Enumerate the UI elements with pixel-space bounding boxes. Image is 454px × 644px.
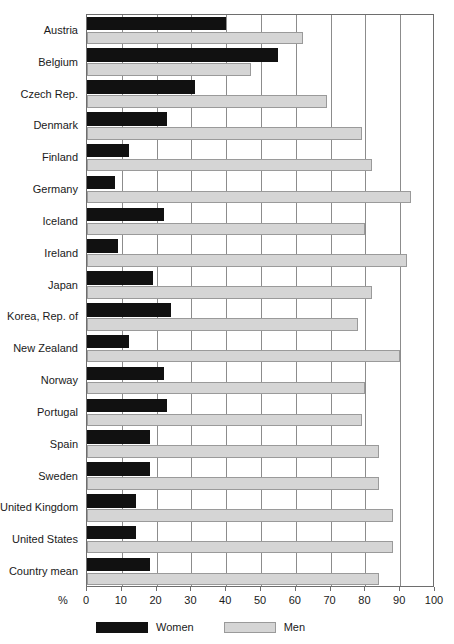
legend-item: Men [224,621,305,633]
category-label: United Kingdom [0,501,78,513]
category-label: Sweden [0,470,78,482]
category-label: Denmark [0,119,78,131]
x-tick-label: 0 [71,594,101,606]
x-tick-mark [434,587,435,591]
x-tick-label: 40 [210,594,240,606]
x-tick-label: 10 [106,594,136,606]
black-square-swatch [96,622,148,633]
percent-axis-symbol: % [58,594,68,606]
category-label: Belgium [0,56,78,68]
legend-label: Women [156,621,194,633]
x-tick-label: 50 [245,594,275,606]
category-label: Portugal [0,406,78,418]
category-label: Spain [0,438,78,450]
x-tick-mark [225,587,226,591]
category-label: Germany [0,183,78,195]
x-axis: 0102030405060708090100 [86,587,434,613]
bar-chart-figure: AustriaBelgiumCzech Rep.DenmarkFinlandGe… [0,0,454,644]
category-label: Norway [0,374,78,386]
x-tick-label: 80 [349,594,379,606]
x-tick-mark [86,587,87,591]
gray-square-swatch [224,622,276,633]
x-tick-mark [295,587,296,591]
x-tick-label: 20 [141,594,171,606]
x-tick-mark [190,587,191,591]
chart-legend: WomenMen [96,618,305,636]
category-label: Country mean [0,565,78,577]
x-tick-label: 70 [315,594,345,606]
category-label: Japan [0,279,78,291]
legend-label: Men [284,621,305,633]
category-label: Finland [0,151,78,163]
category-label: Czech Rep. [0,88,78,100]
category-label: Austria [0,24,78,36]
x-tick-mark [399,587,400,591]
category-label: Ireland [0,247,78,259]
x-tick-label: 100 [419,594,449,606]
x-tick-mark [156,587,157,591]
x-tick-mark [364,587,365,591]
x-tick-mark [330,587,331,591]
category-label: New Zealand [0,342,78,354]
x-tick-label: 60 [280,594,310,606]
x-tick-label: 30 [175,594,205,606]
x-tick-mark [121,587,122,591]
category-label: Iceland [0,215,78,227]
category-axis-labels: AustriaBelgiumCzech Rep.DenmarkFinlandGe… [0,14,454,587]
x-tick-mark [260,587,261,591]
category-label: Korea, Rep. of [0,310,78,322]
legend-item: Women [96,621,194,633]
x-tick-label: 90 [384,594,414,606]
category-label: United States [0,533,78,545]
